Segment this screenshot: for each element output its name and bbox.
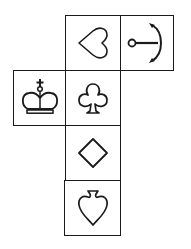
face-crown: Crown: [13, 70, 66, 126]
face-anchor: Anchor: [120, 15, 174, 71]
diamond-icon: [73, 133, 113, 173]
face-heart: Heart: [65, 15, 121, 71]
face-spade: Spade: [64, 180, 121, 236]
face-club: Club: [65, 70, 121, 126]
club-icon: [73, 78, 113, 118]
face-diamond: Diamond: [65, 125, 121, 181]
spade-icon: [73, 187, 113, 229]
heart-icon: [73, 23, 113, 63]
crown-icon: [18, 76, 62, 120]
anchor-icon: [124, 20, 170, 66]
